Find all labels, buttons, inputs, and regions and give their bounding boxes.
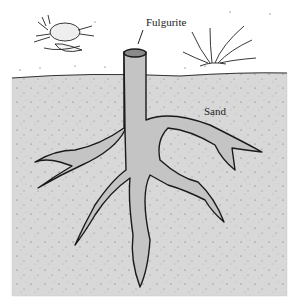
crab-icon — [34, 15, 94, 52]
sand-label: Sand — [204, 105, 226, 117]
fulgurite-label: Fulgurite — [146, 16, 186, 28]
sand-region — [12, 73, 287, 296]
beach-grass-icon — [183, 26, 256, 66]
fulgurite-leader-line — [138, 30, 143, 44]
fulgurite-diagram — [0, 0, 299, 307]
